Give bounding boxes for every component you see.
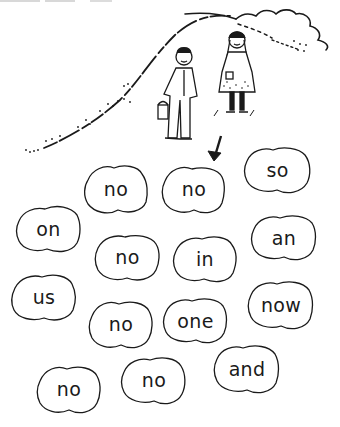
word-label: no [120, 354, 188, 406]
word-blob-14[interactable]: and [213, 343, 281, 395]
girl-figure [214, 32, 255, 116]
word-blob-2[interactable]: no [160, 163, 228, 215]
word-label: no [35, 363, 103, 415]
word-label: no [93, 232, 162, 282]
word-blob-6[interactable]: in [172, 233, 238, 284]
word-blob-12[interactable]: no [35, 363, 103, 415]
word-label: and [213, 343, 281, 395]
word-blob-7[interactable]: an [250, 213, 318, 262]
boy-figure [158, 48, 197, 139]
worksheet: no no so on no in an us no one now [0, 0, 340, 427]
word-blob-8[interactable]: us [10, 272, 78, 322]
word-blob-13[interactable]: no [120, 354, 188, 406]
word-label: in [172, 233, 238, 284]
word-label: no [82, 162, 150, 215]
arrow-icon [208, 136, 221, 161]
word-label: so [243, 145, 312, 195]
word-blob-5[interactable]: no [93, 232, 162, 282]
word-label: an [250, 213, 318, 262]
word-label: no [87, 298, 155, 350]
word-label: now [247, 279, 315, 331]
word-blob-9[interactable]: no [87, 298, 155, 350]
word-blob-10[interactable]: one [162, 296, 229, 345]
word-label: on [15, 203, 82, 254]
word-blob-1[interactable]: no [82, 162, 150, 215]
word-label: one [162, 296, 229, 345]
word-label: us [10, 272, 78, 322]
word-blob-4[interactable]: on [15, 203, 82, 254]
word-blob-11[interactable]: now [247, 279, 315, 331]
word-blob-3[interactable]: so [243, 145, 312, 195]
word-label: no [160, 163, 228, 215]
